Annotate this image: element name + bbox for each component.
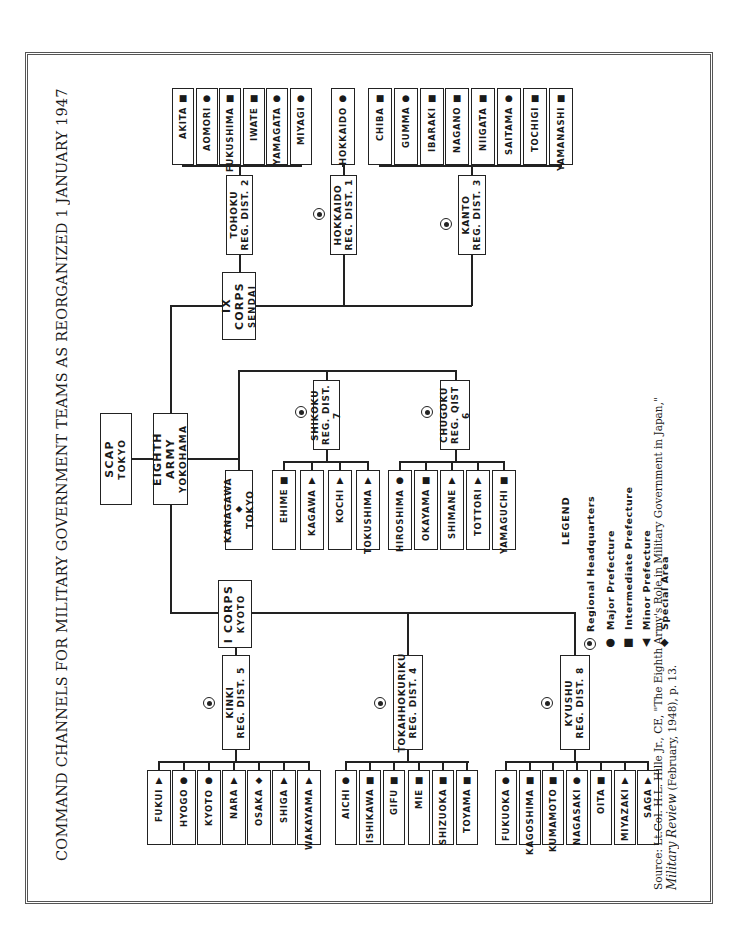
prefecture-hiroshima: HIROSHIMA (388, 470, 412, 550)
square-icon (493, 475, 515, 485)
diamond-icon (234, 505, 244, 516)
prefecture-kagoshima: KAGOSHIMA (519, 770, 541, 845)
prefecture-hokkaido: HOKKAIDO (331, 88, 355, 165)
prefecture-tochigi: TOCHIGI (523, 88, 547, 165)
ix-corps-label: IX CORPS (220, 273, 246, 339)
connector (576, 761, 578, 770)
source-line-2: Military Review (February, 1948), p. 13. (665, 60, 739, 890)
connector (253, 165, 255, 167)
regional-hq-icon (584, 638, 596, 650)
district-tohoku: TOHOKUREG. DIST. 2 (226, 175, 253, 255)
connector (442, 761, 444, 770)
prefecture-chiba: CHIBA (368, 88, 392, 165)
district-shikoku: SHIKOKUREG. DIST. 7 (313, 380, 340, 450)
prefecture-nagasaki: NAGASAKI (566, 770, 588, 845)
district-name: CHUGOKU (439, 387, 450, 443)
triangle-icon (301, 475, 323, 485)
scap-label: SCAP (103, 440, 116, 477)
prefecture-name: SHIZUOKA (433, 789, 453, 840)
prefecture-name: IWATE (244, 107, 264, 160)
prefecture-name: NAGASAKI (567, 789, 587, 840)
diamond-icon (248, 775, 270, 785)
circle-icon (336, 775, 356, 785)
legend-label: Intermediate Prefecture (623, 487, 634, 631)
prefecture-gumma: GUMMA (394, 88, 418, 165)
prefecture-fukuoka: FUKUOKA (495, 770, 517, 845)
circle-icon (567, 775, 587, 785)
prefecture-name: NIIGATA (472, 107, 494, 160)
prefecture-nagano: NAGANO (445, 88, 469, 165)
prefecture-kagawa: KAGAWA (300, 470, 324, 550)
district-number: REG. DIST. 3 (472, 179, 483, 251)
square-icon (220, 93, 240, 103)
district-name: TOKAHHOKURIKU (397, 653, 408, 752)
district-name: KYUSHU (564, 679, 575, 726)
prefecture-shimane: SHIMANE (440, 470, 464, 550)
prefecture-wakayama: WAKAYAMA (297, 770, 321, 845)
prefecture-hyogo: HYOGO (172, 770, 196, 845)
prefecture-fukui: FUKUI (147, 770, 171, 845)
circle-icon (291, 93, 311, 103)
prefecture-shizuoka: SHIZUOKA (432, 770, 454, 845)
circle-icon (395, 93, 417, 103)
connector (451, 461, 453, 470)
connector (477, 461, 479, 470)
prefecture-niigata: NIIGATA (471, 88, 495, 165)
prefecture-shiga: SHIGA (272, 770, 296, 845)
prefecture-name: HOKKAIDO (332, 107, 354, 160)
connector (600, 761, 602, 770)
district-name: TOHOKU (229, 191, 240, 239)
ix-corps-box: IX CORPSSENDAI (222, 272, 256, 340)
i-corps-label: I CORPS (222, 585, 235, 643)
circle-icon (389, 475, 411, 485)
prefecture-name: CHIBA (369, 107, 391, 160)
square-icon (591, 775, 611, 785)
district-kinki: KINKIREG. DIST. 5 (222, 655, 250, 750)
prefecture-oita: OITA (590, 770, 612, 845)
district-name: SHIKOKU (310, 389, 321, 440)
connector (534, 165, 536, 167)
connector (342, 165, 344, 167)
source-line-1: Source: Lt.Col. H.L. Hille Jr., CE, "The… (651, 60, 665, 890)
circle-icon (498, 93, 520, 103)
regional-hq-icon (203, 697, 215, 709)
square-icon (433, 775, 453, 785)
prefecture-tokushima: TOKUSHIMA (356, 470, 380, 550)
prefecture-yamaguchi: YAMAGUCHI (492, 470, 516, 550)
district-number: REG. QIST 6 (450, 381, 472, 449)
eighth-army-box: EIGHTH ARMYYOKOHAMA (153, 413, 188, 505)
square-icon (409, 775, 429, 785)
square-icon (369, 93, 391, 103)
prefecture-name: NAGANO (446, 107, 468, 160)
prefecture-kyoto: KYOTO (197, 770, 221, 845)
connector (425, 461, 427, 470)
triangle-icon (329, 475, 351, 485)
prefecture-name: GUMMA (395, 107, 417, 160)
prefecture-aomori: AOMORI (196, 88, 218, 165)
connector (208, 761, 210, 770)
prefecture-miyazaki: MIYAZAKI (614, 770, 636, 845)
source-line-2-rest: (February, 1948), p. 13. (666, 665, 678, 794)
circle-icon (173, 775, 195, 785)
i-corps-box: I CORPSKYOTO (218, 580, 252, 648)
square-icon (273, 475, 295, 485)
prefecture-name: ISHIKAWA (360, 789, 380, 840)
connector (431, 165, 433, 167)
district-hokkaido: HOKKAIDOREG. DIST. 1 (330, 175, 357, 255)
triangle-icon (357, 475, 379, 485)
prefecture-akita: AKITA (172, 88, 194, 165)
connector (503, 461, 505, 470)
connector (276, 165, 278, 167)
legend-label: Major Prefecture (605, 530, 616, 630)
circle-icon (604, 636, 617, 650)
connector (418, 761, 420, 770)
district-number: REG. DIST. 2 (240, 179, 251, 251)
square-icon (446, 93, 468, 103)
triangle-icon (467, 475, 489, 485)
source-citation: Source: Lt.Col. H.L. Hille Jr., CE, "The… (680, 60, 710, 890)
prefecture-name: KOCHI (329, 489, 351, 545)
square-icon (622, 636, 635, 650)
connector (229, 165, 231, 167)
legend-item-intermediate: Intermediate Prefecture (622, 455, 635, 650)
district-number: REG. DIST. 1 (344, 179, 355, 251)
